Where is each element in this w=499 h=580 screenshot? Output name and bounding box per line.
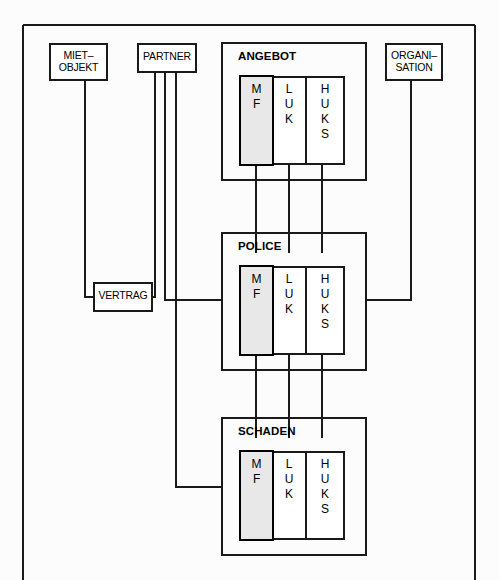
link-organisation-police: [366, 80, 411, 300]
entity-label-miet-objekt[interactable]: MIET– OBJEKT: [50, 50, 107, 74]
link-mietobjekt-vertrag: [85, 80, 94, 297]
group-title-police[interactable]: POLICE: [238, 240, 281, 253]
link-partner-vertrag: [152, 72, 155, 297]
column-label-schaden-huks[interactable]: H U K S: [306, 457, 344, 517]
column-label-schaden-mf[interactable]: M F: [240, 457, 273, 487]
entity-label-organisation[interactable]: ORGANI– SATION: [386, 50, 442, 74]
column-label-angebot-mf[interactable]: M F: [240, 82, 273, 112]
link-partner-police: [165, 72, 222, 300]
column-label-police-luk[interactable]: L U K: [272, 272, 306, 317]
link-partner-schaden: [176, 72, 222, 487]
entity-label-vertrag[interactable]: VERTRAG: [94, 290, 152, 302]
group-title-angebot[interactable]: ANGEBOT: [238, 50, 296, 63]
column-label-police-huks[interactable]: H U K S: [306, 272, 344, 332]
column-label-police-mf[interactable]: M F: [240, 272, 273, 302]
column-label-angebot-luk[interactable]: L U K: [272, 82, 306, 127]
diagram-canvas: MIET– OBJEKT PARTNER ORGANI– SATION VERT…: [0, 0, 499, 580]
column-label-angebot-huks[interactable]: H U K S: [306, 82, 344, 142]
group-title-schaden[interactable]: SCHADEN: [238, 425, 296, 438]
column-label-schaden-luk[interactable]: L U K: [272, 457, 306, 502]
entity-label-partner[interactable]: PARTNER: [138, 51, 196, 63]
